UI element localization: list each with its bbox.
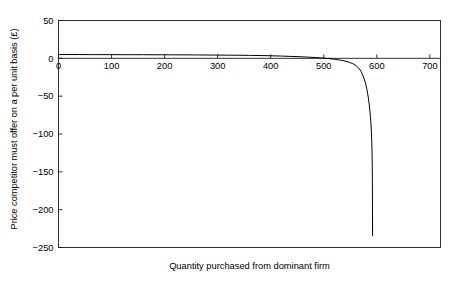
chart-figure: Price competitor must offer on a per uni… — [0, 0, 461, 283]
x-tick-label: 600 — [369, 61, 385, 71]
x-axis-title: Quantity purchased from dominant firm — [58, 261, 441, 271]
plot-root: 500−50−100−150−200−250010020030040050060… — [33, 16, 441, 253]
x-tick-label: 200 — [157, 61, 173, 71]
y-tick-label: −50 — [38, 91, 54, 101]
x-tick-label: 100 — [104, 61, 120, 71]
y-tick-label: −250 — [33, 243, 54, 253]
x-tick-label: 400 — [263, 61, 279, 71]
x-tick-label: 500 — [316, 61, 332, 71]
y-tick-label: −200 — [33, 205, 54, 215]
plot-area: 500−50−100−150−200−250010020030040050060… — [0, 0, 461, 283]
y-tick-label: −150 — [33, 167, 54, 177]
series-line-0 — [59, 55, 373, 237]
y-tick-label: 0 — [48, 54, 53, 64]
y-tick-label: −100 — [33, 129, 54, 139]
y-tick-label: 50 — [43, 16, 53, 26]
x-tick-label: 0 — [56, 61, 61, 71]
x-tick-label: 300 — [210, 61, 226, 71]
x-tick-label: 700 — [422, 61, 438, 71]
